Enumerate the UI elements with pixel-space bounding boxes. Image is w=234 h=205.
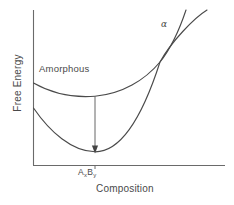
- x-axis-label: Composition: [96, 184, 154, 194]
- alpha-free-energy-curve: [34, 10, 208, 152]
- amorphous-curve-label: Amorphous: [39, 64, 89, 74]
- plot-area: [0, 0, 234, 205]
- free-energy-composition-figure: Free Energy Composition Amorphous α AxBy: [0, 0, 234, 205]
- tick-subscript-y: y: [93, 172, 96, 178]
- composition-tick-label: AxBy: [78, 168, 97, 178]
- alpha-curve-label: α: [161, 20, 167, 29]
- y-axis-label: Free Energy: [13, 40, 23, 126]
